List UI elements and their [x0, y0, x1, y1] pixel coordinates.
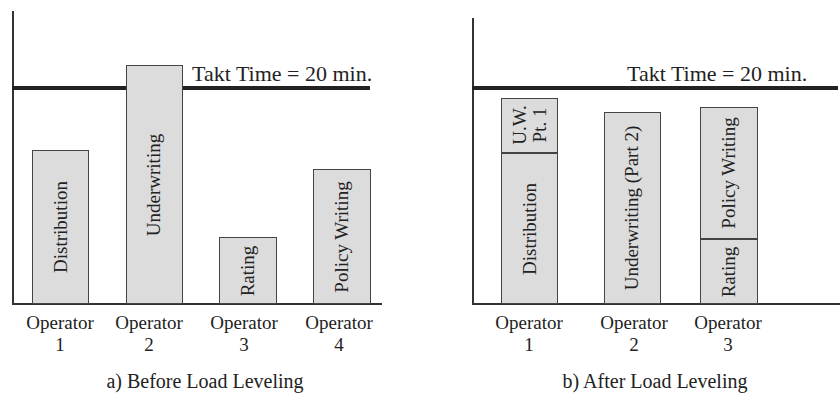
segment-policy-writing: Policy Writing	[700, 107, 758, 238]
x-label-operator-1: Operator1	[15, 312, 105, 356]
caption-after: b) After Load Leveling	[535, 370, 775, 393]
bar-policy-writing: Policy Writing	[313, 169, 371, 304]
bar-distribution: Distribution	[32, 150, 89, 304]
bar-label: Underwriting	[145, 133, 165, 235]
bar-label: Underwriting (Part 2)	[623, 126, 643, 291]
segment-rating: Rating	[700, 239, 758, 304]
bar-rating: Rating	[219, 237, 277, 304]
x-label-operator-4: Operator4	[294, 312, 384, 356]
segment-label: Rating	[719, 246, 739, 297]
x-label-operator-3: Operator3	[199, 312, 289, 356]
takt-label: Takt Time = 20 min.	[192, 61, 372, 87]
bar-label: Policy Writing	[332, 181, 352, 292]
x-label-operator-2: Operator2	[104, 312, 194, 356]
bar-label: Rating	[238, 245, 258, 296]
y-axis	[472, 18, 474, 305]
x-label-operator-3: Operator3	[683, 312, 773, 356]
bar-underwriting: Underwriting	[126, 65, 183, 304]
caption-before: a) Before Load Leveling	[80, 370, 330, 393]
segment-label: Policy Writing	[719, 117, 739, 228]
x-label-operator-2: Operator2	[589, 312, 679, 356]
y-axis	[12, 11, 14, 305]
bar-label: Distribution	[51, 181, 71, 273]
takt-label: Takt Time = 20 min.	[627, 61, 807, 87]
bar-underwriting-part2: Underwriting (Part 2)	[604, 112, 661, 304]
segment-uw-pt1: U.W.Pt. 1	[501, 98, 558, 152]
segment-label: U.W.Pt. 1	[509, 105, 549, 144]
x-label-operator-1: Operator1	[484, 312, 574, 356]
segment-distribution: Distribution	[501, 153, 558, 304]
segment-label: Distribution	[520, 183, 540, 275]
